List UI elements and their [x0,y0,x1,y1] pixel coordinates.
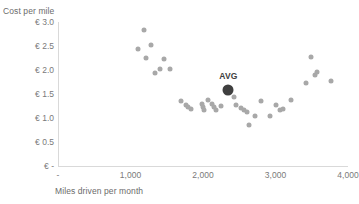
average-data-point [223,85,234,96]
x-axis-tick-label: 4,000 [337,170,358,180]
data-point [188,107,193,112]
data-point [232,94,237,99]
data-point [143,56,148,61]
data-point [135,46,140,51]
data-point [161,57,166,62]
data-point [314,69,319,74]
data-point [288,97,293,102]
data-point [214,107,219,112]
data-point [141,28,146,33]
data-point [219,104,224,109]
data-point [268,114,273,119]
data-point [247,122,252,127]
data-point [201,107,206,112]
x-axis-tick-label: 3,000 [265,170,286,180]
data-point [303,81,308,86]
data-point [328,78,333,83]
x-axis-tick-label: 2,000 [192,170,213,180]
data-point [153,71,158,76]
data-point [168,67,173,72]
data-point [309,54,314,59]
data-point [245,109,250,114]
x-axis-tick-label: - [57,170,60,180]
data-point [148,42,153,47]
data-point [157,67,162,72]
data-point [280,106,285,111]
data-point [253,113,258,118]
average-label: AVG [219,71,237,81]
x-axis-tick-label: 1,000 [120,170,141,180]
x-axis-title: Miles driven per month [55,186,143,196]
data-point [274,103,279,108]
data-point [259,98,264,103]
